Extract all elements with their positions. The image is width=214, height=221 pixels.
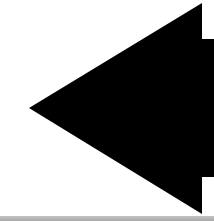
arrow-shape	[29, 3, 214, 214]
arrow-canvas	[0, 0, 214, 221]
arrow-left-icon[interactable]	[0, 0, 214, 221]
bottom-strip	[0, 216, 214, 221]
